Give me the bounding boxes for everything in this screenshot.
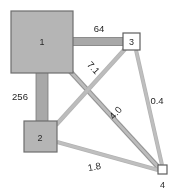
node-3-label: 3 (129, 37, 134, 47)
node-3[interactable]: 3 (123, 33, 140, 50)
node-1-label: 1 (39, 37, 44, 47)
edge-label-1-8: 1.8 (87, 160, 102, 173)
node-4-label: 4 (160, 180, 165, 190)
edge-2-4-core (57, 142, 158, 170)
node-4[interactable]: 4 (158, 165, 167, 190)
graph-svg: 1 2 3 4 64 256 4.0 7.1 0.4 1.8 (0, 0, 176, 192)
node-2[interactable]: 2 (24, 121, 57, 152)
node-4-box[interactable] (158, 165, 167, 174)
edge-label-256: 256 (12, 91, 28, 102)
node-1[interactable]: 1 (11, 11, 73, 73)
edge-label-4-0: 4.0 (107, 104, 124, 121)
edge-label-7-1: 7.1 (85, 59, 102, 76)
edge-label-64: 64 (94, 23, 105, 34)
diagram-canvas: 1 2 3 4 64 256 4.0 7.1 0.4 1.8 (0, 0, 176, 192)
edge-label-0-4: 0.4 (150, 95, 163, 106)
node-2-label: 2 (37, 133, 42, 143)
